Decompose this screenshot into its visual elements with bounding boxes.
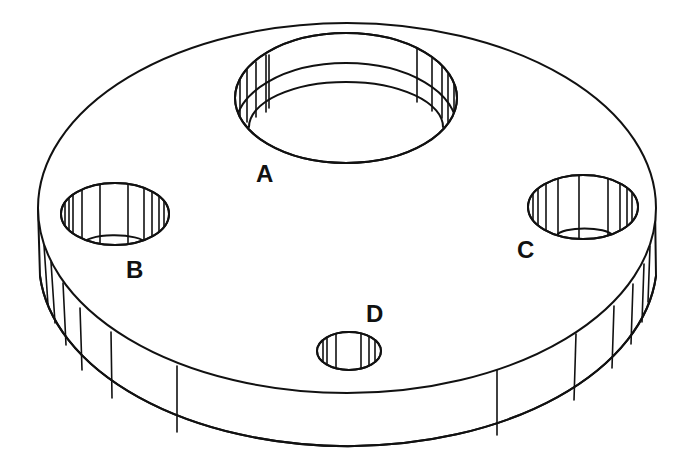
hole-label-b: B	[126, 258, 143, 282]
hole-c	[528, 175, 638, 239]
hole-label-d: D	[366, 302, 383, 326]
hole-label-c: C	[517, 238, 534, 262]
hole-label-a: A	[256, 162, 273, 186]
flange-drawing	[0, 0, 692, 474]
hole-d	[317, 332, 381, 370]
hole-b	[61, 183, 169, 245]
hole-a	[235, 33, 457, 163]
flange-diagram: A B C D	[0, 0, 692, 474]
